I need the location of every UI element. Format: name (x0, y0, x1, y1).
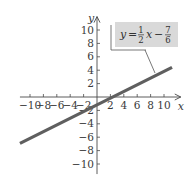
frac1-denominator: 2 (138, 35, 143, 45)
y-tick-label: −4 (79, 117, 95, 129)
frac2-denominator: 6 (165, 35, 170, 45)
frac1-numerator: 1 (138, 25, 143, 35)
y-tick-label: −6 (79, 131, 95, 143)
eq-minus: − (154, 28, 163, 41)
x-tick-label: 10 (157, 99, 170, 111)
callout-leader-line (145, 50, 155, 73)
x-tick-label: 8 (147, 99, 154, 111)
x-tick-label: 6 (134, 99, 141, 111)
y-tick-label: 4 (87, 64, 94, 76)
y-tick-label: 2 (87, 77, 94, 89)
x-tick-label: 4 (120, 99, 127, 111)
eq-sign: = (128, 28, 137, 41)
y-tick-label: 6 (87, 50, 94, 62)
y-tick-label: −10 (72, 158, 94, 170)
y-tick-label: 10 (81, 24, 94, 36)
eq-lhs: y (119, 28, 127, 41)
y-tick-label: −8 (79, 144, 94, 156)
frac2-numerator: 7 (165, 25, 170, 35)
y-tick-label: 8 (87, 37, 94, 49)
x-axis-label: x (178, 100, 185, 113)
eq-variable: x (146, 28, 153, 41)
equation-callout: y=12x−76 (111, 22, 178, 73)
chart-canvas: y=12x−76 −10−8−6−4−2246810108642−2−4−6−8… (0, 0, 193, 188)
y-axis-label: y (87, 12, 95, 25)
